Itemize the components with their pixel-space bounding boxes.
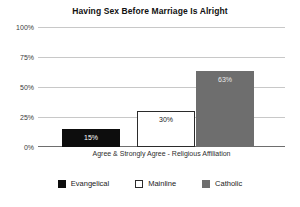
bar-chart: Having Sex Before Marriage Is Alright 10… bbox=[0, 0, 300, 207]
y-axis: 100% 75% 50% 25% 0% bbox=[0, 27, 34, 147]
gridline-75 bbox=[38, 57, 285, 58]
y-tick-label-0: 0% bbox=[0, 144, 34, 151]
legend-item-catholic[interactable]: Catholic bbox=[202, 179, 242, 188]
legend-swatch-black-icon bbox=[58, 180, 66, 188]
y-tick-label-100: 100% bbox=[0, 24, 34, 31]
y-tick-label-25: 25% bbox=[0, 114, 34, 121]
bar-value-label-mainline: 30% bbox=[138, 115, 194, 124]
bar-value-label-catholic: 63% bbox=[197, 75, 253, 84]
chart-legend: Evangelical Mainline Catholic bbox=[0, 179, 300, 188]
bar-evangelical[interactable]: 15% bbox=[62, 129, 120, 147]
legend-label-mainline: Mainline bbox=[148, 179, 176, 188]
chart-title: Having Sex Before Marriage Is Alright bbox=[0, 6, 300, 16]
bar-catholic[interactable]: 63% bbox=[196, 71, 254, 147]
legend-label-evangelical: Evangelical bbox=[71, 179, 109, 188]
legend-swatch-white-icon bbox=[135, 180, 143, 188]
legend-item-mainline[interactable]: Mainline bbox=[135, 179, 176, 188]
x-axis-label: Agree & Strongly Agree - Religious Affil… bbox=[38, 150, 285, 157]
plot-area: 15% 30% 63% bbox=[38, 27, 285, 147]
legend-swatch-gray-icon bbox=[202, 180, 210, 188]
bar-value-label-evangelical: 15% bbox=[63, 133, 119, 142]
gridline-100 bbox=[38, 27, 285, 28]
y-tick-label-75: 75% bbox=[0, 54, 34, 61]
legend-item-evangelical[interactable]: Evangelical bbox=[58, 179, 109, 188]
bar-mainline[interactable]: 30% bbox=[137, 111, 195, 147]
y-tick-label-50: 50% bbox=[0, 84, 34, 91]
legend-label-catholic: Catholic bbox=[215, 179, 242, 188]
